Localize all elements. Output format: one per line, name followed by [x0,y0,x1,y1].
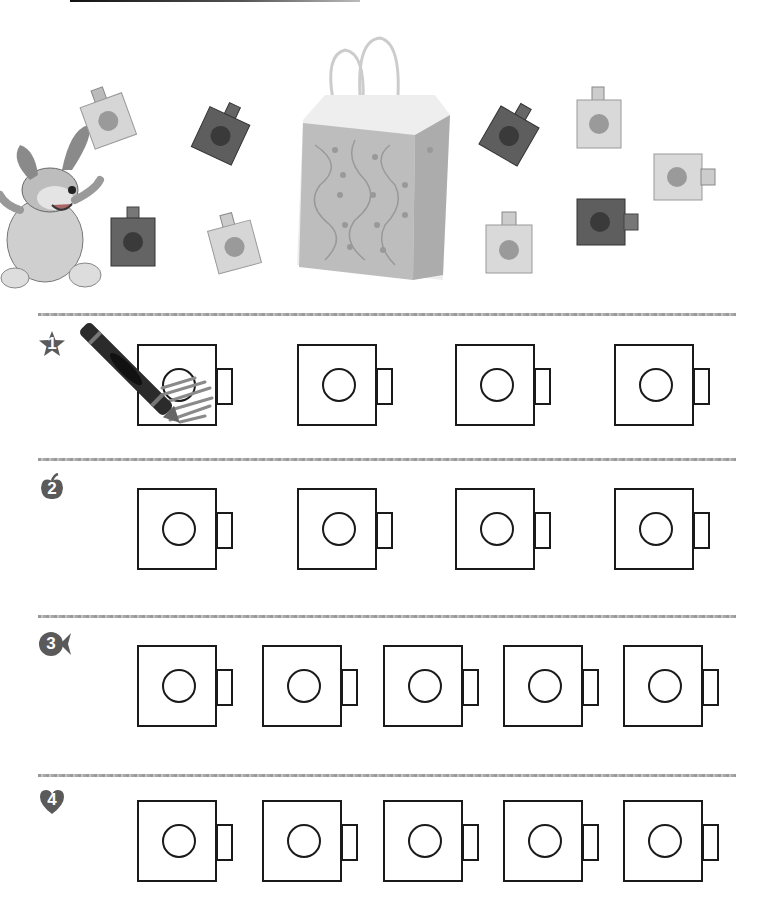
paper-bag-icon [285,35,455,280]
cube-hole [639,368,673,402]
cube-tab [582,669,599,706]
cube-hole [162,824,196,858]
linking-cube-icon [575,197,641,249]
linking-cube-icon [78,85,138,155]
cube-tab [702,669,719,706]
cube-tab [376,512,393,549]
cube-outline[interactable] [297,344,377,426]
linking-cube-icon [573,85,628,155]
cube-outline[interactable] [503,800,583,882]
cube-hole [408,824,442,858]
linking-cube-icon [108,205,158,270]
linking-cube-icon [186,100,256,170]
row-number: 1 [38,330,66,358]
cube-tab [376,368,393,405]
cube-outline[interactable] [137,488,217,570]
cube-hole [162,512,196,546]
cube-tab [462,824,479,861]
cube-hole [648,824,682,858]
cube-tab [702,824,719,861]
cube-outline[interactable] [614,344,694,426]
cube-hole [287,669,321,703]
cube-outline[interactable] [297,488,377,570]
cube-outline[interactable] [262,645,342,727]
cube-hole [287,824,321,858]
crayon-icon [76,322,186,427]
row-number: 2 [38,475,66,503]
row-separator [38,313,736,316]
row-number: 3 [38,630,64,658]
row-separator [38,458,736,461]
cube-hole [480,512,514,546]
row-separator [38,615,736,618]
linking-cube-icon [200,210,268,280]
cube-tab [693,512,710,549]
cube-hole [322,512,356,546]
linking-cube-icon [652,152,718,202]
cube-outline[interactable] [614,488,694,570]
cube-outline[interactable] [623,800,703,882]
cube-outline[interactable] [455,344,535,426]
row-1-star-badge: 1 [38,330,66,358]
cube-hole [480,368,514,402]
cube-tab [216,824,233,861]
cube-tab [462,669,479,706]
row-3-fish-badge: 3 [38,630,66,658]
cube-outline[interactable] [623,645,703,727]
row-4-heart-badge: 4 [38,788,66,816]
header-rule [70,0,360,2]
cube-tab [216,669,233,706]
cube-outline[interactable] [137,645,217,727]
cube-outline[interactable] [455,488,535,570]
cube-outline[interactable] [383,800,463,882]
cube-outline[interactable] [503,645,583,727]
cube-tab [582,824,599,861]
row-number: 4 [38,786,66,814]
cube-hole [408,669,442,703]
cube-outline[interactable] [262,800,342,882]
cube-tab [216,512,233,549]
cube-hole [162,669,196,703]
cube-tab [534,368,551,405]
cube-hole [528,824,562,858]
cube-tab [693,368,710,405]
row-2-apple-badge: 2 [38,473,66,501]
row-separator [38,774,736,777]
cube-hole [528,669,562,703]
cube-hole [322,368,356,402]
cube-outline[interactable] [383,645,463,727]
cube-tab [341,824,358,861]
cube-hole [639,512,673,546]
cube-outline[interactable] [137,800,217,882]
linking-cube-icon [474,100,544,172]
linking-cube-icon [484,210,534,276]
cube-tab [534,512,551,549]
cube-hole [648,669,682,703]
cube-tab [341,669,358,706]
